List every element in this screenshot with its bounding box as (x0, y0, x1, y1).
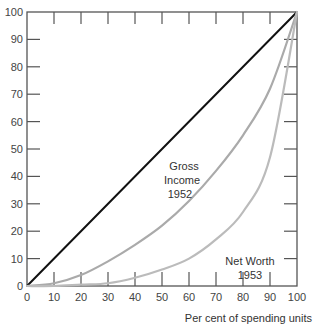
y-tick-label: 30 (11, 198, 23, 210)
x-tick-label: 100 (288, 291, 306, 303)
x-tick-label: 0 (24, 291, 30, 303)
x-tick-label: 60 (183, 291, 195, 303)
y-tick-label: 0 (17, 280, 23, 292)
lorenz-curve-chart: 0102030405060708090100010203040506070809… (0, 0, 313, 332)
y-tick-label: 70 (11, 88, 23, 100)
x-tick-label: 50 (156, 291, 168, 303)
x-tick-label: 90 (264, 291, 276, 303)
gross-income-label-2: Income (164, 174, 200, 186)
curves (27, 12, 297, 286)
y-tick-label: 60 (11, 116, 23, 128)
x-axis-label: Per cent of spending units (185, 312, 313, 324)
y-tick-label: 100 (5, 6, 23, 18)
x-tick-label: 30 (102, 291, 114, 303)
x-tick-label: 10 (48, 291, 60, 303)
y-tick-label: 40 (11, 170, 23, 182)
y-tick-label: 20 (11, 225, 23, 237)
y-tick-label: 90 (11, 33, 23, 45)
x-tick-label: 70 (210, 291, 222, 303)
net-worth-label-1: Net Worth (225, 255, 274, 267)
gross-income-label-3: 1952 (168, 188, 192, 200)
y-tick-label: 50 (11, 143, 23, 155)
y-tick-label: 10 (11, 253, 23, 265)
y-tick-label: 80 (11, 61, 23, 73)
net-worth-label-2: 1953 (238, 269, 262, 281)
x-tick-label: 80 (237, 291, 249, 303)
gross-income-label-1: Gross (169, 160, 199, 172)
equality-line (27, 12, 297, 286)
x-tick-label: 40 (129, 291, 141, 303)
x-tick-label: 20 (75, 291, 87, 303)
